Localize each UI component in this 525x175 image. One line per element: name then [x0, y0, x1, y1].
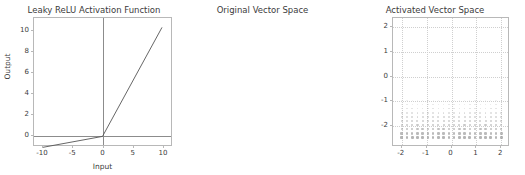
ytickmark-leaky-10 [31, 30, 33, 31]
y-axis-label-leaky-relu: Output [3, 47, 12, 87]
ytickmark-leaky-4 [31, 93, 33, 94]
chart-panel-original-vector-space: Original Vector Space 2 1 0 -1 -2 -2 -1 … [175, 0, 350, 175]
ytick-leaky-4: 4 [12, 89, 29, 97]
ytick-leaky-10: 10 [12, 26, 29, 34]
chart-title-leaky-relu: Leaky ReLU Activation Function [8, 5, 180, 15]
matplotlib-figure: Leaky ReLU Activation Function 0 2 4 6 8… [0, 0, 525, 175]
xtickmark-leaky-10 [163, 146, 164, 148]
chart-panel-leaky-relu: Leaky ReLU Activation Function 0 2 4 6 8… [0, 0, 180, 175]
ytick-leaky-2: 2 [12, 110, 29, 118]
chart-title-activated-vector-space: Activated Vector Space [345, 5, 525, 15]
xtickmark-leaky-5 [133, 146, 134, 148]
xtick-leaky--10: -10 [36, 149, 47, 157]
leaky-relu-curve [34, 18, 173, 147]
xtick-leaky-5: 5 [130, 149, 134, 157]
ytick-leaky-8: 8 [12, 47, 29, 55]
xtickmark-leaky--10 [42, 146, 43, 148]
xtick-leaky-0: 0 [100, 149, 104, 157]
xtick-leaky--5: -5 [69, 149, 76, 157]
plot-area-leaky-relu [33, 17, 172, 146]
x-axis-label-leaky-relu: Input [33, 162, 172, 171]
ytick-leaky-0: 0 [12, 131, 29, 139]
xtickmark-leaky--5 [72, 146, 73, 148]
xtickmark-leaky-0 [103, 146, 104, 148]
ytickmark-leaky-6 [31, 72, 33, 73]
ytick-leaky-6: 6 [12, 68, 29, 76]
chart-panel-activated-vector-space: Activated Vector Space 2 1 0 -1 -2 -2 -1… [345, 0, 525, 175]
chart-title-original-vector-space: Original Vector Space [175, 5, 350, 15]
ytickmark-leaky-0 [31, 135, 33, 136]
ytickmark-leaky-2 [31, 114, 33, 115]
ytickmark-leaky-8 [31, 51, 33, 52]
xtick-leaky-10: 10 [159, 149, 168, 157]
